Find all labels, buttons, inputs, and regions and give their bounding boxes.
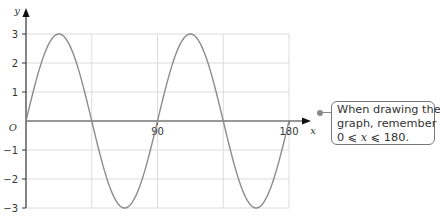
x-tick-label: 90: [151, 126, 164, 137]
y-tick-label: 2: [12, 58, 18, 69]
callout-line-1: When drawing the: [337, 103, 434, 117]
y-axis-label: y: [13, 5, 20, 16]
y-tick-label: −1: [3, 145, 18, 156]
callout-line-3: 0 ⩽ x ⩽ 180.: [337, 131, 434, 145]
origin-label: O: [9, 122, 17, 133]
y-tick-label: −2: [3, 174, 18, 185]
hint-callout: When drawing the graph, remember 0 ⩽ x ⩽…: [331, 101, 435, 145]
callout-line-2: graph, remember: [337, 117, 434, 131]
y-tick-label: −3: [3, 203, 18, 214]
callout-math: 0 ⩽ x ⩽ 180.: [337, 131, 409, 144]
x-tick-label: 180: [279, 126, 298, 137]
x-axis-label: x: [310, 125, 316, 136]
y-tick-label: 1: [12, 87, 18, 98]
y-tick-label: 3: [12, 29, 18, 40]
